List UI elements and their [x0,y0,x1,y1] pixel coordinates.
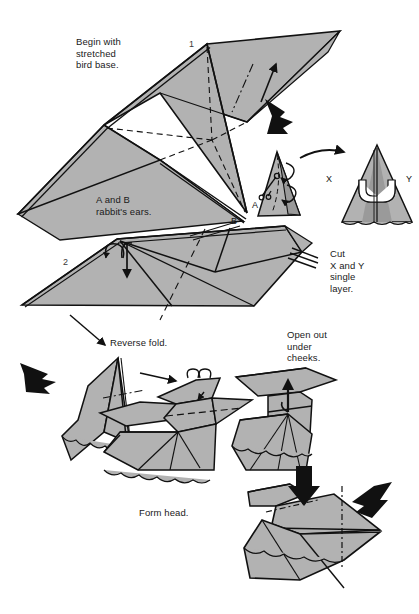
caption-begin: Begin with stretched bird base. [76,36,121,71]
step6-angled-arrow [352,482,392,518]
caption-form-head: Form head. [139,507,189,519]
point-label-x: X [326,174,332,184]
point-label-b: B [231,216,237,226]
step4-loop-arrow-2 [199,369,211,378]
curved-arrow-to-inset [300,150,344,158]
step-label-2: 2 [63,257,68,267]
step1-solid-arrow [265,99,293,134]
caption-rabbit-ears: A and B rabbit's ears. [96,194,152,217]
point-label-y: Y [406,174,412,184]
origami-instruction-page: Begin with stretched bird base. A and B … [0,0,419,614]
step-label-1: 1 [189,39,194,49]
step3-to-step4-arrow [140,373,176,381]
step3-solid-arrow [20,363,56,394]
caption-cut-xy: Cut X and Y single layer. [330,248,364,294]
origami-diagram-artwork [0,0,419,614]
inset-xy-figure [342,145,412,225]
caption-open-out: Open out under cheeks. [287,329,327,364]
arrow-step2-to-step3 [70,315,105,345]
caption-reverse-fold: Reverse fold. [110,337,167,349]
step6-figure [244,466,392,588]
step4-loop-arrow-1 [187,369,199,378]
step5-figure [232,368,336,470]
inset-ragged-bottom [342,222,412,225]
point-label-a: A [252,200,258,210]
step4-ragged-bottom [104,470,210,483]
